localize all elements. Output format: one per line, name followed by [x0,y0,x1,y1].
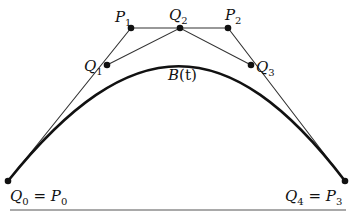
label-p2: P2 [224,6,241,26]
point-q3 [248,62,255,69]
point-p2 [225,25,232,32]
bezier-diagram: P1 Q2 P2 Q1 Q3 B(t) Q0 = P0 Q4 = P3 [0,0,356,211]
control-polygon [8,28,345,181]
label-q3: Q3 [256,58,275,78]
label-curve: B(t) [167,66,197,84]
label-end: Q4 = P3 [285,187,342,207]
point-p3 [342,178,349,185]
label-q2: Q2 [169,6,188,26]
point-p0 [5,178,12,185]
point-q1 [104,62,111,69]
label-q1: Q1 [84,57,103,77]
label-start: Q0 = P0 [10,187,67,207]
label-p1: P1 [114,8,131,28]
construction-lines [107,28,251,65]
